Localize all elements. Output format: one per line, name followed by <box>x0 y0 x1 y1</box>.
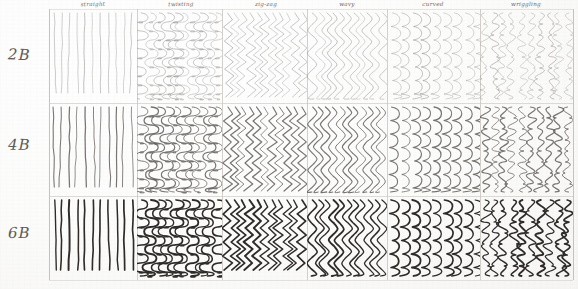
pencil-stroke <box>209 13 222 100</box>
pencil-stroke <box>452 200 463 276</box>
pencil-stroke <box>562 107 573 192</box>
pencil-stroke <box>504 13 516 99</box>
column-header-wavy: wavy <box>317 1 377 7</box>
stroke-cell-wavy-4b <box>307 103 387 196</box>
pencil-stroke <box>412 13 422 99</box>
pencil-stroke <box>496 13 508 99</box>
pencil-stroke <box>443 13 454 99</box>
pencil-stroke <box>349 13 361 99</box>
stroke-cell-curved-2b <box>387 9 480 103</box>
pencil-stroke <box>421 107 432 192</box>
pencil-stroke <box>378 13 387 99</box>
pencil-stroke <box>108 200 111 270</box>
pencil-stroke <box>85 107 87 187</box>
pencil-stroke <box>108 107 110 187</box>
pencil-stroke <box>431 200 442 276</box>
pencil-stroke <box>55 200 57 270</box>
stroke-cell-curved-4b <box>387 103 480 196</box>
stroke-cell-wriggling-4b <box>480 103 573 196</box>
pencil-stroke <box>518 107 527 192</box>
pencil-stroke <box>77 13 79 93</box>
stroke-cell-straight-6b <box>49 196 137 280</box>
pencil-stroke <box>348 107 358 193</box>
pencil-stroke <box>108 13 109 93</box>
pencil-stroke <box>59 107 62 187</box>
pencil-stroke <box>421 200 431 276</box>
stroke-cell-wavy-2b <box>307 9 387 103</box>
pencil-stroke <box>517 200 526 276</box>
pencil-stroke <box>411 200 421 276</box>
pencil-stroke <box>376 107 387 193</box>
pencil-stroke <box>60 200 62 270</box>
pencil-stroke <box>116 107 117 187</box>
pencil-stroke <box>526 107 537 192</box>
pencil-stroke <box>161 13 178 99</box>
mark-making-sheet: 2B4B6Bstraighttwistingzig-zagwavycurvedw… <box>0 0 578 289</box>
pencil-stroke <box>99 107 101 187</box>
pencil-stroke <box>168 13 184 100</box>
pencil-stroke <box>69 200 70 270</box>
pencil-stroke <box>222 200 233 270</box>
pencil-stroke <box>535 200 545 276</box>
pencil-stroke <box>99 200 100 270</box>
column-header-straight: straight <box>63 1 123 8</box>
stroke-cell-twisting-6b <box>137 196 222 280</box>
pencil-stroke <box>441 107 453 192</box>
pencil-stroke <box>92 200 93 270</box>
pencil-stroke <box>552 107 564 192</box>
pencil-stroke <box>348 200 359 276</box>
pencil-stroke <box>480 107 492 192</box>
pencil-stroke <box>533 107 545 192</box>
pencil-stroke <box>377 200 387 276</box>
column-header-curved: curved <box>403 1 463 7</box>
stroke-cell-twisting-4b <box>137 103 222 196</box>
column-header-zigzag: zig-zag <box>236 1 296 8</box>
pencil-stroke <box>223 13 234 97</box>
pencil-stroke <box>307 13 318 99</box>
pencil-stroke <box>390 200 400 276</box>
pencil-stroke <box>123 13 125 93</box>
pencil-stroke <box>115 13 117 93</box>
pencil-stroke <box>480 13 490 99</box>
pencil-stroke <box>84 13 85 93</box>
pencil-stroke <box>84 200 85 270</box>
stroke-cell-straight-2b <box>49 9 137 103</box>
pencil-stroke <box>272 200 284 270</box>
pencil-stroke <box>489 13 501 99</box>
pencil-stroke <box>564 13 573 99</box>
pencil-stroke <box>131 107 134 187</box>
pencil-stroke <box>391 13 402 99</box>
pencil-stroke <box>463 107 474 192</box>
stroke-cell-twisting-2b <box>137 9 222 103</box>
pencil-stroke <box>75 107 78 187</box>
pencil-stroke <box>388 107 400 192</box>
pencil-stroke <box>297 107 307 191</box>
stroke-cell-curved-6b <box>387 196 480 280</box>
pencil-stroke <box>192 107 208 193</box>
pencil-stroke <box>151 13 167 100</box>
pencil-stroke <box>100 13 102 93</box>
pencil-stroke <box>132 200 134 270</box>
stroke-cell-zigzag-4b <box>222 103 307 196</box>
pencil-stroke <box>93 107 96 187</box>
pencil-stroke <box>472 107 480 192</box>
grid-vertical-rule <box>573 9 574 280</box>
stroke-cell-wavy-6b <box>307 196 387 280</box>
pencil-stroke <box>211 200 222 277</box>
pencil-stroke <box>362 107 373 193</box>
pencil-stroke <box>121 107 123 187</box>
pencil-stroke <box>326 13 337 99</box>
pencil-stroke <box>491 107 501 192</box>
pencil-stroke <box>496 200 508 276</box>
pencil-stroke <box>69 107 70 187</box>
grid-bottom-edge <box>49 280 573 281</box>
pencil-stroke <box>275 107 285 191</box>
stroke-cell-zigzag-6b <box>222 196 307 280</box>
pencil-stroke <box>411 107 422 192</box>
stroke-cell-straight-4b <box>49 103 137 196</box>
pencil-stroke <box>116 200 118 270</box>
pencil-stroke <box>78 200 79 270</box>
pencil-stroke <box>129 13 132 93</box>
pencil-stroke <box>54 13 57 93</box>
pencil-stroke <box>464 13 475 99</box>
